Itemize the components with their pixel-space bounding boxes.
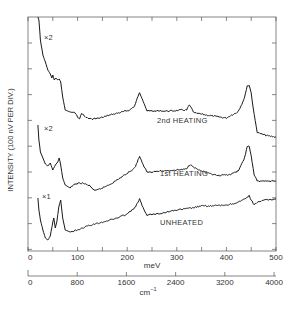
x-axis-ticks-cm: 08001600240032004000 — [28, 272, 283, 287]
scale-label-unheated: ×1 — [42, 192, 51, 201]
scale-label-2nd-heating: ×2 — [44, 33, 53, 42]
y-axis-ticks — [28, 43, 276, 249]
x-tick-label-mev: 400 — [220, 253, 234, 262]
x-tick-label-cm: 0 — [28, 278, 33, 287]
x-tick-label-cm: 3200 — [216, 278, 234, 287]
x-tick-label-cm: 1600 — [118, 278, 136, 287]
y-axis-label: INTENSITY (100 nV PER DIV.) — [6, 88, 15, 192]
curve-1st-heating — [38, 125, 276, 190]
scale-label-1st-heating: ×2 — [44, 124, 53, 133]
x-tick-label-mev: 300 — [170, 253, 184, 262]
eels-spectrum-chart: 0100200300400500 08001600240032004000 IN… — [0, 0, 293, 311]
x-axis-ticks-mev: 0100200300400500 — [28, 17, 283, 262]
cm-unit-superscript: −1 — [150, 286, 156, 292]
x-tick-label-mev: 100 — [71, 253, 85, 262]
plot-frame — [28, 17, 276, 251]
x-axis-label-cm: cm−1 — [140, 286, 157, 297]
curve-label-1st-heating: 1st HEATING — [160, 169, 208, 178]
curve-unheated — [38, 195, 276, 240]
cm-unit-text: cm — [140, 288, 151, 297]
x-tick-label-mev: 200 — [121, 253, 135, 262]
x-tick-label-cm: 800 — [71, 278, 85, 287]
curve-label-unheated: UNHEATED — [160, 218, 203, 227]
x-tick-label-mev: 0 — [28, 253, 33, 262]
x-tick-label-mev: 500 — [269, 253, 283, 262]
curve-label-2nd-heating: 2nd HEATING — [157, 116, 208, 125]
x-tick-label-cm: 4000 — [265, 278, 283, 287]
x-tick-label-cm: 2400 — [167, 278, 185, 287]
spectrum-curves — [38, 17, 276, 240]
x-axis-label-mev: meV — [144, 261, 161, 270]
